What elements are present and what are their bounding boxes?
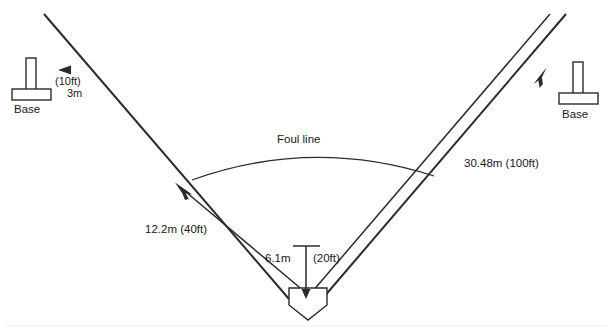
left-foul-line — [44, 14, 289, 299]
left-base-plate — [12, 89, 51, 100]
foul-line-arc — [192, 157, 434, 180]
field-diagram-canvas: Base Base (10ft) 3m Foul line 30.48m (10… — [0, 0, 613, 334]
right-base-marker-icon — [559, 62, 598, 104]
right-distance-label: 30.48m (100ft) — [464, 157, 539, 169]
base-offset-metric-label: 3m — [67, 87, 82, 99]
plate-distance-metric-label: 6.1m — [265, 252, 291, 264]
base-offset-imperial-label: (10ft) — [55, 75, 81, 87]
left-base-label: Base — [14, 103, 40, 115]
right-base-plate — [559, 93, 598, 104]
right-foul-line-group — [312, 14, 566, 298]
right-distance-arrow-icon — [534, 68, 547, 88]
left-foul-line-group — [44, 14, 289, 299]
left-dimension-line — [180, 187, 305, 292]
right-foul-line-outer — [323, 14, 566, 298]
left-distance-label: 12.2m (40ft) — [145, 223, 207, 235]
foul-line-label: Foul line — [277, 133, 320, 145]
plate-distance-imperial-label: (20ft) — [313, 252, 340, 264]
right-foul-line-inner — [312, 14, 550, 292]
right-base-label: Base — [562, 108, 588, 120]
left-base-post — [26, 58, 36, 91]
left-dimension-line-group — [175, 183, 305, 292]
base-offset-arrow-icon — [58, 66, 71, 75]
left-base-marker-icon — [12, 58, 51, 100]
right-base-post — [573, 62, 583, 95]
foul-line-arc-group — [192, 157, 434, 180]
field-diagram: Base Base (10ft) 3m Foul line 30.48m (10… — [0, 0, 613, 334]
left-dimension-arrow-icon — [175, 183, 192, 201]
